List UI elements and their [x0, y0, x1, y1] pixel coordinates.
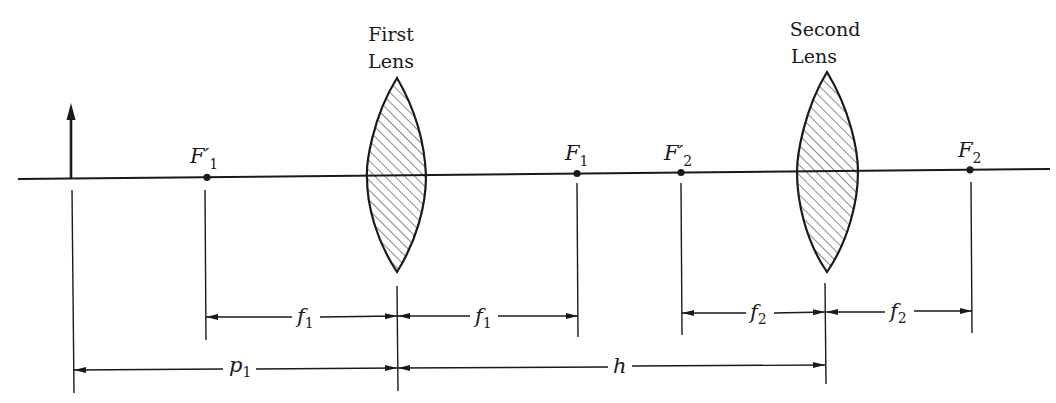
optical-axis: [18, 169, 1050, 179]
ext-lens1: [397, 286, 398, 391]
ext-F2-prime: [681, 183, 682, 335]
dim-h-a: [398, 367, 608, 368]
label-F1: F1: [564, 141, 589, 169]
label-f1-left: f1: [295, 304, 314, 331]
dim-p1-a: [74, 369, 223, 370]
label-p1: p1: [229, 353, 251, 380]
second-lens-title-line1: Second: [790, 18, 861, 40]
label-F2-prime: F′2: [663, 141, 692, 169]
label-F1-prime: F′1: [189, 144, 218, 172]
focal-point-F1-prime: [203, 174, 210, 181]
dim-p1-b: [256, 368, 397, 369]
focal-point-F2: [966, 166, 973, 173]
label-h: h: [613, 354, 627, 378]
ext-F1: [577, 183, 578, 337]
ext-F1-prime: [205, 190, 206, 340]
first-lens-title-line2: Lens: [368, 50, 414, 72]
dimension-lines: [74, 311, 972, 370]
object-arrow-icon: [67, 103, 76, 178]
second-lens-title-line2: Lens: [791, 45, 837, 67]
dim-f1-left-b: [320, 316, 397, 317]
dim-f2-left-b: [774, 312, 825, 313]
label-f2-left: f2: [748, 300, 767, 327]
label-F2: F2: [957, 138, 982, 166]
label-f1-right: f1: [473, 304, 492, 331]
focal-point-F2-prime: [677, 169, 684, 176]
dim-h-b: [632, 365, 825, 366]
label-f2-right: f2: [888, 299, 907, 326]
first-lens-title-line1: First: [368, 23, 414, 45]
ext-object: [72, 190, 74, 393]
two-lens-diagram: First Lens Second Lens F′1 F1 F′2 F2 f1 …: [0, 0, 1056, 403]
focal-point-F1: [573, 170, 580, 177]
ext-lens2: [825, 283, 826, 384]
